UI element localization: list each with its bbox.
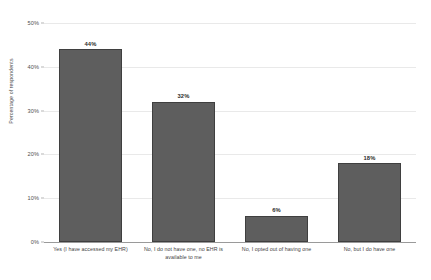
clipped-footer-text (120, 275, 340, 280)
bar-value-label: 18% (338, 155, 401, 161)
x-axis-category-labels: Yes (I have accessed my EHR)No, I do not… (44, 246, 416, 272)
y-tick-label: 40% (28, 64, 40, 70)
bar-slot: 32% (152, 23, 215, 242)
gridline-0 (44, 242, 416, 243)
bar-slot: 6% (245, 23, 308, 242)
y-tick-label: 0% (31, 239, 39, 245)
x-axis-label: No, I opted out of having one (232, 246, 321, 254)
bar-value-label: 32% (152, 93, 215, 99)
bar-value-label: 44% (59, 41, 122, 47)
bar-chart: Percentage of respondents 0%10%20%30%40%… (0, 0, 431, 280)
bar[interactable] (338, 163, 401, 242)
bar-slot: 18% (338, 23, 401, 242)
y-axis-title: Percentage of respondents (8, 36, 14, 146)
x-axis-label: No, but I do have one (325, 246, 414, 254)
bars-layer: 44%32%6%18% (44, 23, 416, 242)
y-tick-label: 20% (28, 151, 40, 157)
y-tick-label: 50% (28, 20, 40, 26)
plot-area: 0%10%20%30%40%50% 44%32%6%18% (44, 23, 416, 242)
y-tick-label: 10% (28, 195, 40, 201)
x-axis-label: Yes (I have accessed my EHR) (46, 246, 135, 254)
bar-value-label: 6% (245, 207, 308, 213)
bar-slot: 44% (59, 23, 122, 242)
bar[interactable] (152, 102, 215, 242)
bar[interactable] (245, 216, 308, 242)
bar[interactable] (59, 49, 122, 242)
y-tick-label: 30% (28, 108, 40, 114)
x-axis-label: No, I do not have one, no EHR is availab… (139, 246, 228, 261)
